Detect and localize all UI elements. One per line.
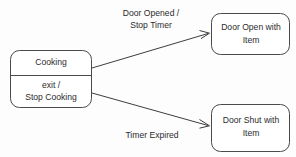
state-activity-label-line1: exit /	[42, 80, 61, 90]
state-name-label-line2: Item	[243, 35, 260, 45]
state-diagram: Cooking exit / Stop Cooking Door Open wi…	[0, 0, 296, 157]
transition-label-line2: Stop Timer	[130, 20, 172, 30]
state-diagram-canvas: Cooking exit / Stop Cooking Door Open wi…	[0, 0, 296, 157]
transition-line	[92, 34, 208, 69]
transition-label-door-opened: Door Opened / Stop Timer	[123, 8, 180, 30]
state-door-open-with-item[interactable]: Door Open with Item	[212, 14, 290, 55]
transition-label-line1: Door Opened /	[123, 8, 180, 18]
state-name-label-line1: Door Shut with	[223, 115, 280, 125]
state-name-label-line2: Item	[243, 128, 260, 138]
state-door-shut-with-item[interactable]: Door Shut with Item	[212, 105, 290, 152]
transition-cooking-to-door-shut[interactable]	[92, 93, 210, 128]
transition-label-timer-expired: Timer Expired	[125, 130, 178, 140]
state-name-label: Cooking	[35, 57, 67, 67]
state-name-label-line1: Door Open with	[221, 22, 281, 32]
state-activity-label-line2: Stop Cooking	[25, 92, 77, 102]
transition-cooking-to-door-open[interactable]	[92, 31, 210, 69]
transition-label-line1: Timer Expired	[125, 130, 178, 140]
state-cooking[interactable]: Cooking exit / Stop Cooking	[11, 51, 92, 108]
state-box	[212, 14, 290, 55]
transition-line	[92, 93, 208, 126]
